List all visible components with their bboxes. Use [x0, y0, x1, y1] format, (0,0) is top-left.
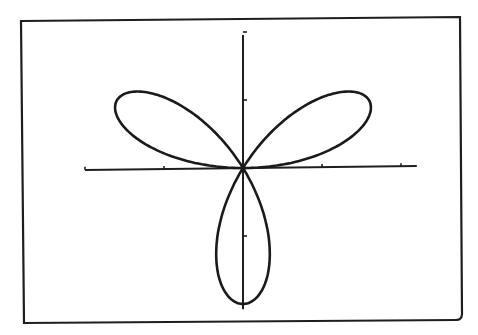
axes — [85, 32, 417, 309]
graph-screen — [0, 0, 478, 335]
